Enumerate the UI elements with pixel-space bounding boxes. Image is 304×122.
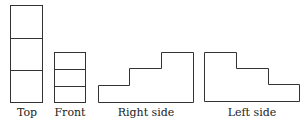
views-drawing (0, 0, 304, 122)
right-side-view-label: Right side (118, 106, 175, 119)
front-view-shape (55, 53, 86, 103)
top-view-shape (11, 6, 43, 103)
top-view-label: Top (17, 106, 37, 119)
left-side-view-label: Left side (228, 106, 277, 119)
right-side-view-shape (99, 53, 194, 103)
orthographic-views-diagram: Top Front Right side Left side (0, 0, 304, 122)
front-view-label: Front (54, 106, 85, 119)
left-side-view-shape (205, 53, 300, 102)
